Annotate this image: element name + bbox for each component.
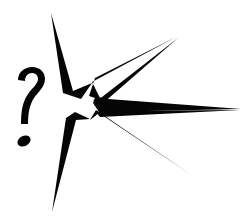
starburst-question-mark-artwork [0,0,247,224]
image-canvas [0,0,247,224]
